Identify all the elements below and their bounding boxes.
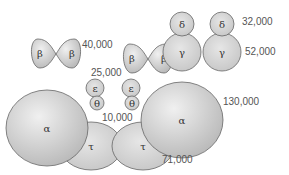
epsilon-right: ε (122, 79, 140, 97)
delta-right: δ (210, 12, 234, 36)
svg-text:δ: δ (179, 19, 185, 30)
alpha-left: α (6, 90, 88, 166)
svg-text:ε: ε (128, 83, 133, 94)
theta-left: θ (90, 96, 104, 110)
label-theta-mass: 10,000 (102, 112, 133, 123)
svg-text:θ: θ (94, 98, 100, 109)
svg-text:θ: θ (129, 98, 135, 109)
beta-dimer-left: β β (31, 39, 80, 68)
svg-text:β: β (37, 48, 43, 59)
label-alpha-mass: 130,000 (223, 96, 260, 107)
gamma-left: γ (163, 33, 201, 71)
label-tau-mass: 71,000 (162, 154, 193, 165)
delta-left: δ (170, 12, 194, 36)
label-gamma-mass: 52,000 (245, 46, 276, 57)
svg-text:τ: τ (140, 141, 146, 152)
label-beta-mass: 40,000 (82, 39, 113, 50)
theta-right: θ (125, 96, 139, 110)
epsilon-left: ε (86, 79, 104, 97)
svg-text:τ: τ (88, 141, 94, 152)
svg-text:α: α (179, 115, 186, 126)
svg-text:α: α (44, 123, 51, 134)
gamma-right: γ (203, 33, 241, 71)
svg-text:δ: δ (219, 19, 225, 30)
label-epsilon-mass: 25,000 (91, 67, 122, 78)
svg-text:β: β (69, 48, 75, 59)
subunit-diagram: τ τ α α ε θ ε θ β β β β (0, 0, 289, 175)
svg-text:γ: γ (179, 47, 185, 58)
alpha-right: α (141, 82, 223, 158)
svg-text:γ: γ (219, 47, 225, 58)
svg-text:β: β (129, 53, 135, 64)
label-delta-mass: 32,000 (242, 16, 273, 27)
svg-text:ε: ε (92, 83, 97, 94)
